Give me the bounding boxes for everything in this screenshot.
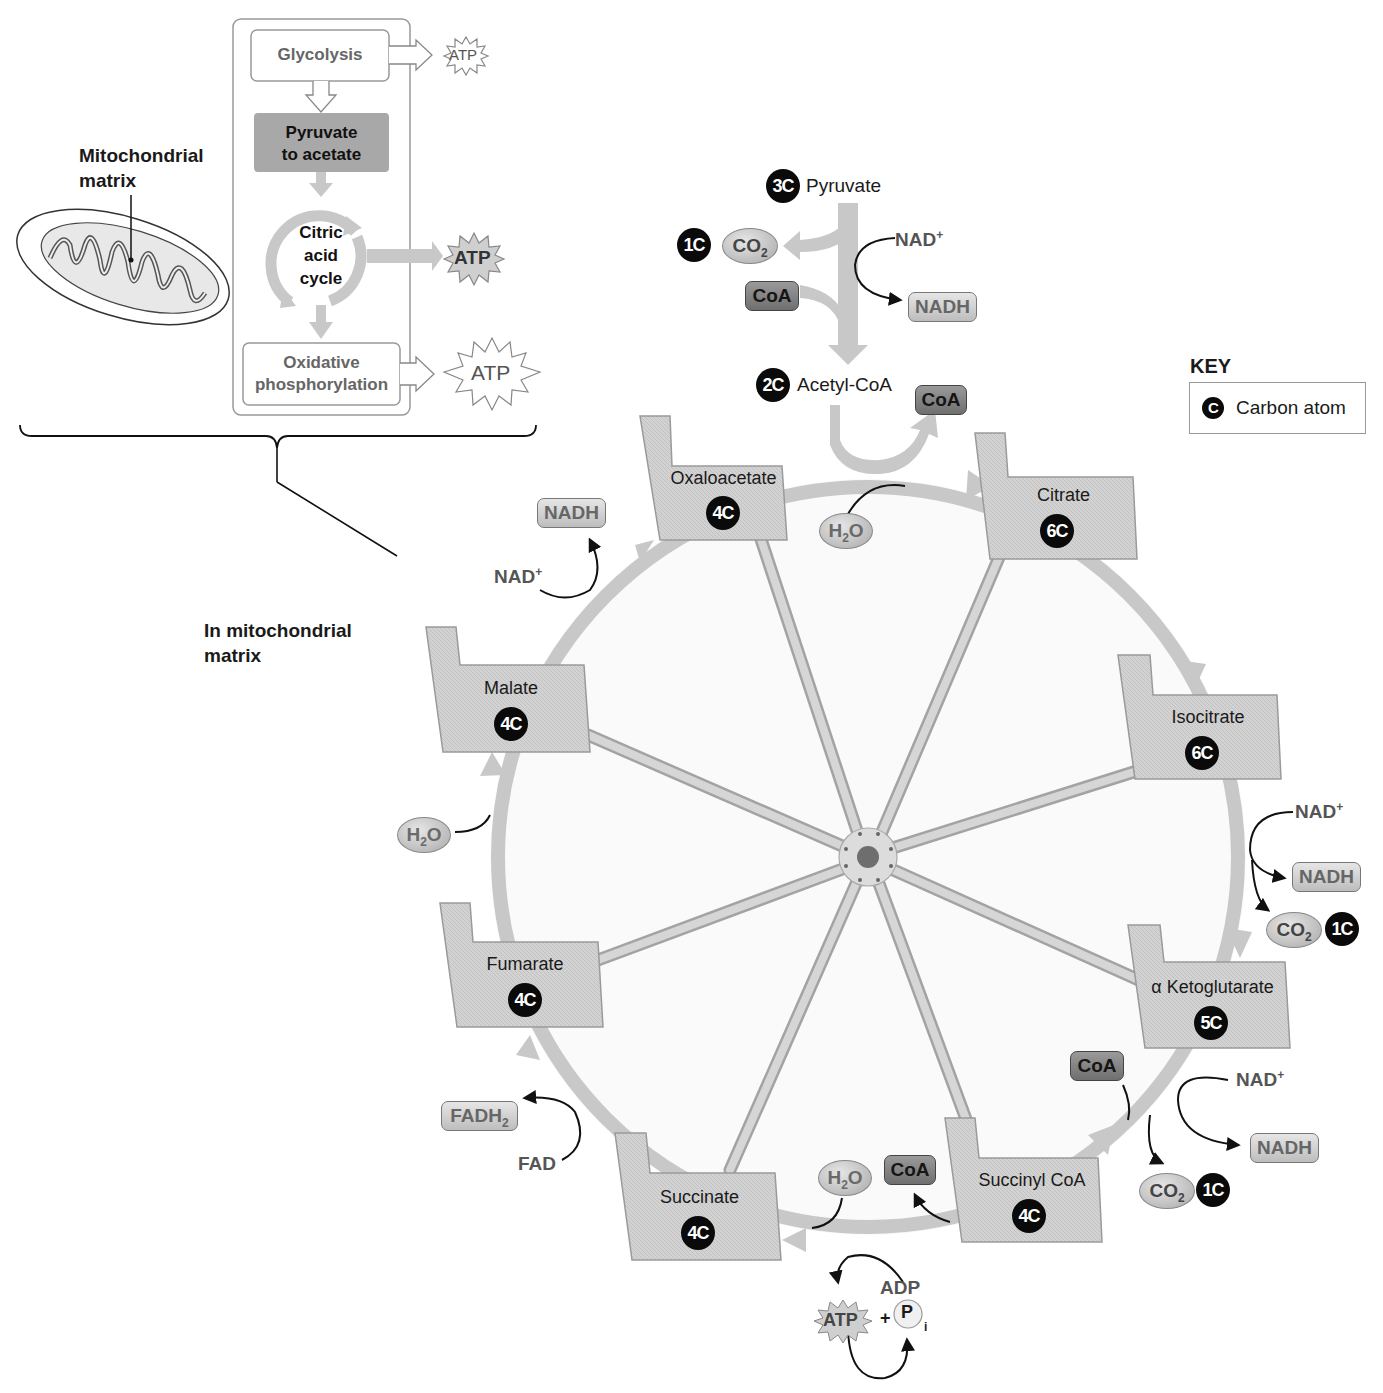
phosphate-label: P [901,1302,913,1323]
nad-sup: + [936,228,943,242]
nad: NAD [1295,801,1336,822]
coa-out: CoA [915,385,967,415]
co2-text: CO [732,235,761,256]
nad: NAD [1236,1069,1277,1090]
ring-arrowhead-succinate [782,1228,806,1252]
isocitrate-label: Isocitrate [1135,707,1281,728]
atp-label-1: ATP [449,46,477,63]
coa-ketoglutarate: CoA [1070,1051,1124,1081]
nad-plus-entry: NAD+ [895,228,943,251]
ring-arrowhead-fumarate [516,1035,540,1060]
carbon-badge-malate: 4C [494,707,528,741]
nad-text: NAD [895,229,936,250]
line: phosphorylation [243,374,400,396]
citrate-label: Citrate [990,485,1137,506]
line: acid [281,244,361,267]
co2-entry: CO2 [722,228,778,264]
line: cycle [281,267,361,290]
carbon-badge-ketoglutarate: 5C [1194,1006,1228,1040]
adp-label: ADP [880,1277,920,1299]
nad-to-nadh-arrow [855,238,900,300]
key-title: KEY [1190,355,1231,378]
fumarate-label: Fumarate [457,954,593,975]
mitochondrial-matrix-label: Mitochondrial matrix [79,143,204,193]
carbon-badge-co2-ketoglutarate: 1C [1196,1173,1230,1207]
carbon-badge-succinyl-coa: 4C [1012,1199,1046,1233]
carbon-badge-succinate: 4C [681,1216,715,1250]
label-line-1: Mitochondrial [79,143,204,168]
carbon-badge-pyruvate: 3C [766,169,800,203]
oxaloacetate-label: Oxaloacetate [660,468,787,489]
atp-label-2: ATP [454,247,491,269]
coa-in: CoA [745,281,799,311]
sub: 2 [420,835,427,849]
o: O [849,520,864,541]
brace [20,425,536,448]
line: In mitochondrial [204,618,352,643]
carbon-badge-co2: 1C [677,228,711,262]
pyruvate-to-acetate-label: Pyruvate to acetate [254,122,389,166]
nad-plus-ketoglutarate: NAD+ [1236,1068,1284,1091]
o: O [427,824,442,845]
carbon-badge-acetyl-coa: 2C [756,368,790,402]
carbon-badge-isocitrate: 6C [1185,736,1219,770]
succinyl-coa-label: Succinyl CoA [962,1170,1102,1191]
carbon-badge-citrate: 6C [1040,514,1074,548]
co2-isocitrate: CO2 [1266,912,1322,948]
fadh2-label: FADH2 [441,1101,518,1131]
line: Oxidative [243,352,400,374]
sub: 2 [841,1178,848,1192]
sup: + [1277,1068,1284,1082]
plus-sign: + [880,1308,891,1329]
co2-ketoglutarate: CO2 [1139,1173,1195,1209]
oxidative-phosphorylation-label: Oxidative phosphorylation [243,352,400,396]
sub: 2 [1305,930,1312,944]
nad: NAD [494,566,535,587]
co2-sub: 2 [761,246,768,260]
sup: + [1336,800,1343,814]
succinate-label: Succinate [632,1187,767,1208]
o: O [848,1167,863,1188]
line: matrix [204,643,352,668]
h: H [406,824,420,845]
water-citrate-step: H2O [819,513,873,549]
malate-label: Malate [443,678,579,699]
co: CO [1149,1180,1178,1201]
nadh-isocitrate: NADH [1292,862,1361,892]
h: H [827,1167,841,1188]
citric-acid-cycle-label: Citric acid cycle [281,221,361,290]
hub-center [857,846,879,868]
h: H [828,520,842,541]
overview-panel [3,19,540,556]
alpha-ketoglutarate-label: α Ketoglutarate [1140,977,1285,998]
nadh-ketoglutarate: NADH [1250,1133,1319,1163]
carbon-key-icon: C [1202,397,1224,419]
fad-label: FAD [518,1153,556,1175]
coa-succinyl: CoA [884,1155,936,1185]
nadh-entry: NADH [908,292,977,322]
nad-plus-malate: NAD+ [494,565,542,588]
phosphate-sub: i [924,1320,927,1334]
mitochondrion-illustration [3,187,243,347]
pyruvate-label: Pyruvate [806,175,881,197]
line: to acetate [254,144,389,166]
atp-cycle-label: ATP [823,1310,858,1331]
acetyl-coa-entry-arrow [830,405,938,474]
sub: 2 [842,531,849,545]
sub: 2 [502,1116,509,1130]
nadh-malate: NADH [537,498,606,528]
line: Pyruvate [254,122,389,144]
acetyl-coa-label: Acetyl-CoA [797,374,892,396]
key-box: C Carbon atom [1189,382,1366,434]
label-line-2: matrix [79,168,204,193]
line: Citric [281,221,361,244]
atp-label-3: ATP [471,361,510,385]
co: CO [1276,919,1305,940]
water-fumarate-step: H2O [397,817,451,853]
key-description: Carbon atom [1236,397,1346,419]
nad-plus-isocitrate: NAD+ [1295,800,1343,823]
sup: + [535,565,542,579]
carbon-badge-oxaloacetate: 4C [706,496,740,530]
carbon-badge-fumarate: 4C [508,983,542,1017]
water-succinyl-step: H2O [818,1160,872,1196]
